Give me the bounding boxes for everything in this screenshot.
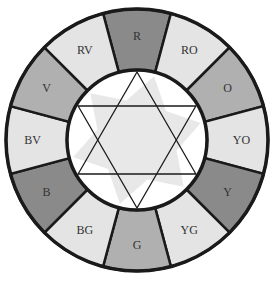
- segment-label-yg: YG: [181, 223, 199, 237]
- segment-label-ro: RO: [181, 43, 198, 57]
- segment-label-y: Y: [223, 185, 232, 199]
- segment-label-bv: BV: [24, 133, 41, 147]
- segment-label-rv: RV: [77, 43, 93, 57]
- center-circle: [67, 70, 207, 210]
- color-wheel-diagram: RROOYOYYGGBGBBVVRV: [0, 0, 274, 283]
- segment-label-v: V: [42, 81, 51, 95]
- segment-label-g: G: [133, 238, 142, 252]
- segment-label-o: O: [223, 81, 232, 95]
- segment-label-bg: BG: [76, 223, 93, 237]
- segment-label-r: R: [133, 29, 141, 43]
- segment-label-yo: YO: [233, 133, 251, 147]
- segment-label-b: B: [42, 185, 50, 199]
